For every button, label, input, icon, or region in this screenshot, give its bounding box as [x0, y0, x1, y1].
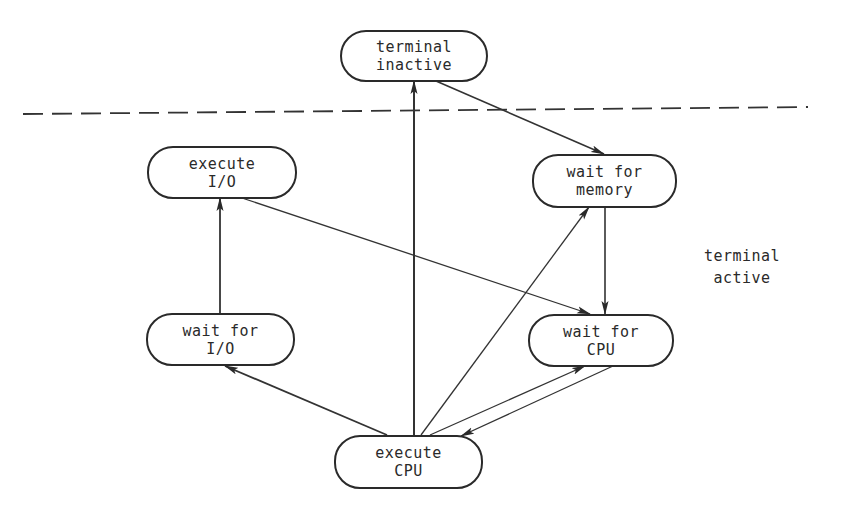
state-label-line2: CPU: [394, 462, 423, 480]
state-label-line1: wait for: [563, 323, 639, 341]
edge-execute-cpu-to-wait-io: [225, 366, 387, 435]
state-wait-for-cpu: wait for CPU: [528, 314, 674, 367]
state-execute-io: execute I/O: [147, 146, 297, 199]
region-label-terminal-active: terminal active: [697, 245, 787, 289]
state-execute-cpu: execute CPU: [334, 435, 483, 489]
state-label-line2: I/O: [208, 173, 237, 191]
edge-execute-io-to-wait-cpu: [242, 198, 590, 314]
state-label-line2: CPU: [587, 341, 616, 359]
terminal-boundary-dashed-line: [23, 107, 808, 114]
state-wait-for-memory: wait for memory: [532, 154, 677, 208]
edge-wait-cpu-to-execute-cpu: [461, 366, 613, 436]
state-wait-for-io: wait for I/O: [146, 313, 295, 366]
edge-terminal-inactive-to-wait-memory: [436, 81, 604, 154]
state-label-line2: memory: [576, 181, 633, 199]
state-terminal-inactive: terminal inactive: [340, 30, 488, 82]
state-label-line1: terminal: [376, 38, 452, 56]
edge-execute-cpu-to-wait-cpu: [430, 366, 585, 435]
state-label-line2: inactive: [376, 56, 452, 74]
state-label-line2: I/O: [206, 340, 235, 358]
state-diagram: terminal inactive execute I/O wait for m…: [0, 0, 845, 516]
state-label-line1: execute: [375, 444, 442, 462]
state-label-line1: wait for: [566, 163, 642, 181]
state-label-line1: wait for: [182, 322, 258, 340]
region-label-line2: active: [697, 267, 787, 289]
state-label-line1: execute: [189, 155, 256, 173]
region-label-line1: terminal: [697, 245, 787, 267]
